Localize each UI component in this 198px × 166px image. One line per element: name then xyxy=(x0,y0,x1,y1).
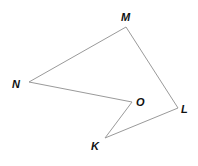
vertex-label-m: M xyxy=(121,11,131,23)
vertex-label-n: N xyxy=(12,78,21,90)
diagram-canvas: M N O K L xyxy=(0,0,198,166)
vertex-label-k: K xyxy=(91,140,100,152)
polygon-diagram: M N O K L xyxy=(0,0,198,166)
vertex-label-l: L xyxy=(181,103,188,115)
polygon-klmno xyxy=(29,27,178,138)
vertex-label-o: O xyxy=(136,96,145,108)
